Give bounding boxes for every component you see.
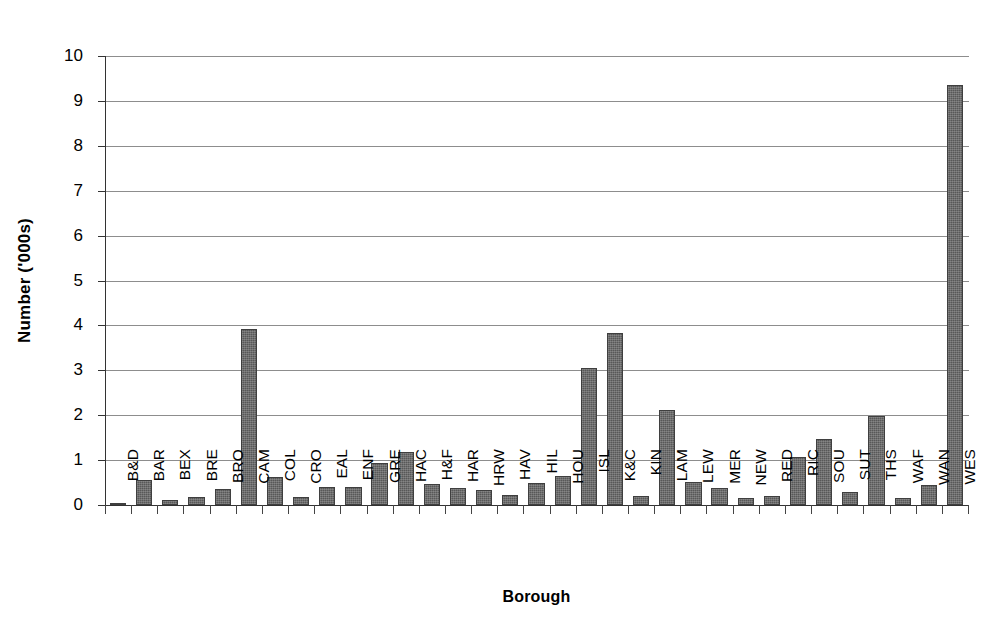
x-tick-label-COL: COL: [282, 449, 298, 519]
y-tick-mark: [98, 370, 105, 371]
x-tick-mark: [916, 505, 917, 514]
x-tick-label-WAN: WAN: [936, 449, 952, 519]
y-tick-mark: [98, 101, 105, 102]
y-tick-label: 3: [49, 361, 83, 378]
x-tick-mark: [183, 505, 184, 514]
x-tick-mark: [602, 505, 603, 514]
x-tick-label-WES: WES: [962, 449, 978, 519]
x-tick-mark: [654, 505, 655, 514]
x-tick-label-EAL: EAL: [334, 449, 350, 519]
x-tick-label-BRE: BRE: [204, 449, 220, 519]
y-tick-mark: [98, 460, 105, 461]
y-tick-mark: [98, 415, 105, 416]
x-tick-mark: [262, 505, 263, 514]
x-tick-mark: [837, 505, 838, 514]
x-tick-mark: [236, 505, 237, 514]
x-tick-label-WAF: WAF: [910, 449, 926, 519]
bars-layer: [105, 56, 968, 505]
x-tick-label-CRO: CRO: [308, 449, 324, 519]
x-tick-mark: [288, 505, 289, 514]
x-tick-label-ISL: ISL: [596, 449, 612, 519]
x-tick-label-HRW: HRW: [491, 449, 507, 519]
y-axis-title: Number ('000s): [14, 56, 36, 505]
x-tick-label-HAV: HAV: [517, 449, 533, 519]
y-tick-mark: [98, 236, 105, 237]
x-tick-mark: [471, 505, 472, 514]
y-tick-label: 0: [49, 496, 83, 513]
x-tick-mark: [314, 505, 315, 514]
x-tick-label-MER: MER: [727, 449, 743, 519]
y-tick-mark: [98, 146, 105, 147]
x-tick-mark: [445, 505, 446, 514]
x-tick-label-HOU: HOU: [570, 449, 586, 519]
x-tick-mark: [680, 505, 681, 514]
x-tick-mark: [523, 505, 524, 514]
x-tick-mark: [811, 505, 812, 514]
x-tick-mark: [706, 505, 707, 514]
y-tick-label: 1: [49, 451, 83, 468]
bar-WES: [947, 85, 963, 505]
x-tick-label-LEW: LEW: [700, 449, 716, 519]
x-tick-mark: [419, 505, 420, 514]
y-tick-mark: [98, 325, 105, 326]
x-tick-label-BEX: BEX: [177, 449, 193, 519]
x-tick-mark: [497, 505, 498, 514]
x-tick-mark: [157, 505, 158, 514]
y-tick-label: 10: [49, 47, 83, 64]
x-tick-label-B&D: B&D: [125, 449, 141, 519]
bar-chart: Number ('000s) 012345678910 B&DBARBEXBRE…: [0, 0, 1004, 640]
x-tick-label-HAC: HAC: [413, 449, 429, 519]
x-tick-label-K&C: K&C: [622, 449, 638, 519]
x-tick-mark: [733, 505, 734, 514]
x-tick-label-BRO: BRO: [230, 449, 246, 519]
y-tick-label: 8: [49, 137, 83, 154]
x-tick-label-HAR: HAR: [465, 449, 481, 519]
x-tick-label-NEW: NEW: [753, 449, 769, 519]
x-tick-label-GRE: GRE: [387, 449, 403, 519]
x-tick-mark: [210, 505, 211, 514]
x-tick-mark: [628, 505, 629, 514]
y-tick-label: 5: [49, 272, 83, 289]
y-tick-mark: [98, 505, 105, 506]
x-tick-label-H&F: H&F: [439, 449, 455, 519]
x-tick-mark: [393, 505, 394, 514]
x-tick-label-SUT: SUT: [857, 449, 873, 519]
x-tick-mark: [942, 505, 943, 514]
x-tick-mark: [105, 505, 106, 514]
y-tick-label: 2: [49, 406, 83, 423]
x-tick-label-THS: THS: [883, 449, 899, 519]
x-tick-label-LAM: LAM: [674, 449, 690, 519]
y-tick-label: 4: [49, 316, 83, 333]
y-tick-mark: [98, 281, 105, 282]
x-tick-label-SOU: SOU: [831, 449, 847, 519]
x-tick-mark: [576, 505, 577, 514]
x-tick-label-BAR: BAR: [151, 449, 167, 519]
bar-B&D: [110, 503, 126, 505]
x-tick-label-RED: RED: [779, 449, 795, 519]
y-tick-mark: [98, 191, 105, 192]
x-tick-mark: [863, 505, 864, 514]
x-tick-mark: [340, 505, 341, 514]
x-tick-label-CAM: CAM: [256, 449, 272, 519]
y-tick-label: 6: [49, 227, 83, 244]
y-tick-label: 7: [49, 182, 83, 199]
x-tick-mark: [367, 505, 368, 514]
x-tick-label-HIL: HIL: [544, 449, 560, 519]
x-tick-mark: [550, 505, 551, 514]
x-tick-label-KIN: KIN: [648, 449, 664, 519]
x-tick-mark: [785, 505, 786, 514]
x-tick-label-RIC: RIC: [805, 449, 821, 519]
x-tick-mark: [890, 505, 891, 514]
y-tick-mark: [98, 56, 105, 57]
y-tick-label: 9: [49, 92, 83, 109]
x-tick-mark: [131, 505, 132, 514]
x-tick-label-ENF: ENF: [360, 449, 376, 519]
x-axis-title: Borough: [105, 588, 968, 606]
x-tick-mark: [759, 505, 760, 514]
